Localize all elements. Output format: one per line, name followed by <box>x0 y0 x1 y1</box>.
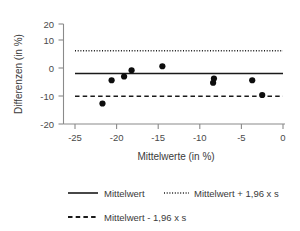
data-point <box>99 100 105 106</box>
data-points-group <box>99 63 265 106</box>
chart-svg: 20 10 0 -10 -20 Differenzen (in %) -25 -… <box>0 0 300 231</box>
x-tick-label-minus25: -25 <box>68 132 82 143</box>
x-tick-label-minus20: -20 <box>110 132 124 143</box>
x-tick-label-minus15: -15 <box>151 132 165 143</box>
data-point <box>128 67 134 73</box>
data-point <box>249 77 255 83</box>
data-point <box>211 75 217 81</box>
data-point <box>109 77 115 83</box>
reference-lines-group <box>75 51 283 97</box>
bland-altman-chart: 20 10 0 -10 -20 Differenzen (in %) -25 -… <box>0 0 300 231</box>
y-axis-title: Differenzen (in %) <box>13 34 24 114</box>
legend-label-mean: Mittelwert <box>104 188 145 199</box>
y-tick-label-minus10: -10 <box>40 91 54 102</box>
data-point <box>159 63 165 69</box>
data-point <box>121 73 127 79</box>
y-tick-label-20: 20 <box>43 19 54 30</box>
x-axis-title: Mittelwerte (in %) <box>137 151 214 162</box>
legend-label-upper: Mittelwert + 1,96 x s <box>194 188 279 199</box>
x-tick-label-minus5: -5 <box>237 132 245 143</box>
y-tick-label-minus20: -20 <box>40 119 54 130</box>
legend-label-lower: Mittelwert - 1,96 x s <box>104 212 187 223</box>
x-tick-label-0: 0 <box>280 132 285 143</box>
y-tick-label-10: 10 <box>43 35 54 46</box>
y-tick-label-0: 0 <box>49 63 54 74</box>
x-tick-label-minus10: -10 <box>193 132 207 143</box>
data-point <box>259 92 265 98</box>
